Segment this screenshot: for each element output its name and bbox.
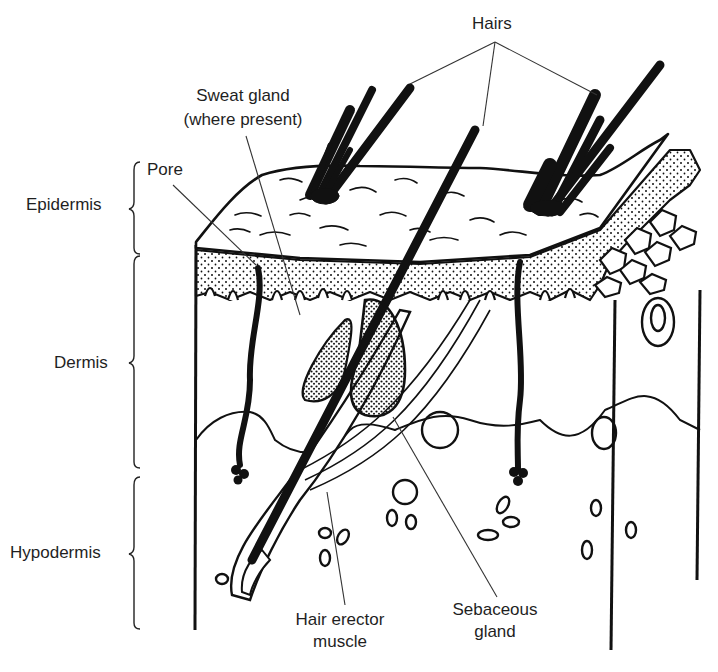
sweat-gland-coils [231, 465, 528, 486]
epidermis-brace [129, 162, 140, 254]
sebaceous-leader [393, 417, 497, 597]
skin-cross-section-illustration [0, 0, 718, 672]
hairs-leader-right [495, 42, 597, 95]
hair-erector-label: Hair erector muscle [280, 610, 400, 652]
sebaceous-gland-label-line2: gland [440, 622, 550, 642]
sebaceous-gland-label: Sebaceous gland [440, 600, 550, 642]
hypodermis-brace [129, 477, 140, 629]
sweat-gland-label-line2: (where present) [168, 110, 318, 130]
dermis-brace [129, 256, 140, 468]
hairs-label: Hairs [472, 14, 512, 34]
hair-erector-label-line2: muscle [280, 632, 400, 652]
pore-label: Pore [147, 160, 183, 180]
hairs-leader-middle [483, 42, 495, 126]
hair-erector-label-line1: Hair erector [280, 610, 400, 630]
sweat-gland-label-line1: Sweat gland [168, 86, 318, 106]
layer-braces [129, 162, 140, 629]
blood-vessel [642, 298, 674, 346]
hairs-leader-left [410, 42, 495, 84]
hypodermis-label: Hypodermis [10, 543, 101, 563]
dermis-hypodermis-boundary [196, 396, 700, 452]
epidermis-label: Epidermis [26, 195, 102, 215]
sweat-gland-label: Sweat gland (where present) [168, 86, 318, 130]
hair-erector-leader [327, 492, 345, 605]
dermis-label: Dermis [54, 353, 108, 373]
sebaceous-gland-label-line1: Sebaceous [440, 600, 550, 620]
